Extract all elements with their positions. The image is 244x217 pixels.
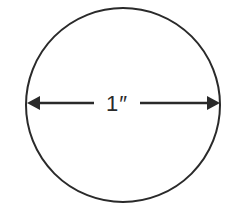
left-arrowhead-icon (27, 96, 40, 110)
right-arrowhead-icon (207, 96, 220, 110)
dimension-label: 1″ (94, 90, 140, 118)
diameter-diagram: 1″ (0, 0, 244, 217)
